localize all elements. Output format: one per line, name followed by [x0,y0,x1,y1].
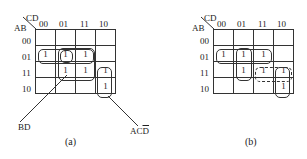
col-var-diagonal [23,17,36,29]
diagram-lines [0,0,307,159]
col-var-diagonal [201,17,214,29]
bd-pointer-line [20,75,67,122]
acd-bar-pointer-line [108,96,138,126]
